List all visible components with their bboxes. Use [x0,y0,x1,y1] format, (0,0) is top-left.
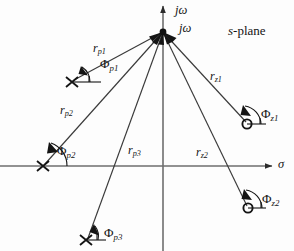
real-axis-label: σ [278,158,284,171]
vectors-group [45,32,247,238]
s-plane-label: s-plane [228,24,266,37]
label-phi-p1: Φp1 [100,57,118,70]
pole-p1-group [66,66,101,87]
axes-group [0,6,272,251]
s-plane-diagram: jω jω σ s-plane rp1 Φp1 rp2 Φp2 rp3 Φp3 … [0,0,294,251]
label-phi-p2: Φp2 [57,144,75,157]
label-phi-z2: Φz2 [262,192,279,205]
label-phi-z1: Φz1 [261,107,278,120]
label-r-z1: rz1 [210,70,222,82]
label-r-p2: rp2 [60,104,73,116]
imaginary-axis-label: jω [175,4,187,17]
imaginary-axis-point-label: jω [179,22,191,35]
label-r-p3: rp3 [128,144,141,156]
label-r-z2: rz2 [196,146,208,158]
label-phi-p3: Φp3 [104,226,122,239]
label-r-p1: rp1 [93,42,106,54]
evaluation-point-dot [160,29,167,36]
vector-r-z1 [163,32,246,122]
pole-p3-group [80,224,106,245]
vector-r-z2 [163,32,247,206]
